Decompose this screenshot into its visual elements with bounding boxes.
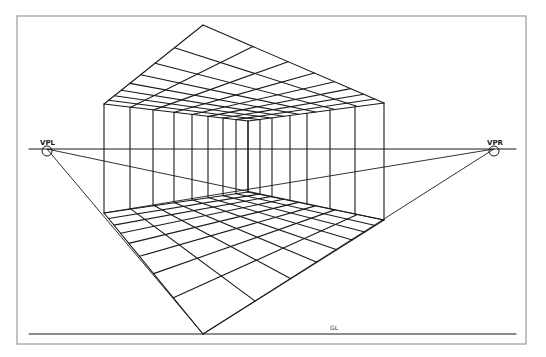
ceiling-grid	[104, 25, 384, 121]
ceiling-grid-line	[248, 103, 384, 121]
vpl-marker-icon	[42, 146, 52, 156]
floor-grid	[104, 192, 384, 334]
vanishing-point-left: VPL	[40, 139, 56, 156]
floor-grid-line	[173, 215, 357, 298]
vpl-label: VPL	[40, 139, 56, 147]
ground-line-label: GL	[330, 324, 339, 331]
floor-grid-line	[193, 200, 337, 250]
floor-grid-line	[203, 220, 384, 334]
vpr-label: VPR	[487, 139, 504, 147]
construction-lines	[47, 149, 494, 334]
floor-grid-line	[114, 197, 270, 226]
construction-line	[104, 149, 494, 213]
vanishing-point-right: VPR	[487, 139, 504, 156]
ceiling-grid-line	[104, 25, 203, 104]
floor-grid-line	[139, 206, 315, 256]
drawing-canvas: GL VPL VPR	[0, 0, 546, 357]
perspective-drawing: GL VPL VPR	[0, 0, 546, 357]
floor-grid-line	[248, 192, 384, 220]
floor-grid-line	[131, 209, 255, 301]
